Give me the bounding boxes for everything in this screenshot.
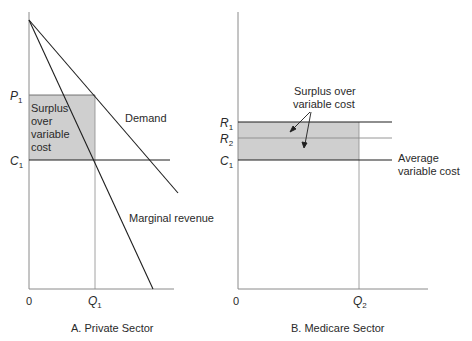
surplus-label-b-2: variable cost xyxy=(293,98,355,110)
caption-medicare-sector: B. Medicare Sector xyxy=(291,322,385,334)
label-r1: R1 xyxy=(220,116,234,132)
label-q2: Q2 xyxy=(353,294,367,310)
avc-label-1: Average xyxy=(398,152,439,164)
surplus-label-a-4: cost xyxy=(31,141,51,153)
panel-medicare-sector: R1 R2 C1 Surplus over variable cost Aver… xyxy=(220,12,460,334)
origin-b: 0 xyxy=(233,295,239,307)
label-q1: Q1 xyxy=(88,294,102,310)
surplus-label-a-2: over xyxy=(31,115,53,127)
label-r2: R2 xyxy=(220,132,234,148)
avc-label-2: variable cost xyxy=(398,165,460,177)
origin-a: 0 xyxy=(26,295,32,307)
caption-private-sector: A. Private Sector xyxy=(71,322,154,334)
label-c1-b: C1 xyxy=(220,154,234,170)
surplus-label-b-1: Surplus over xyxy=(294,85,356,97)
label-p1: P1 xyxy=(10,89,23,105)
surplus-label-a-3: variable xyxy=(31,128,70,140)
panel-private-sector: P1 C1 Surplus over variable cost Demand … xyxy=(10,12,214,334)
demand-label: Demand xyxy=(125,112,167,124)
diagram-canvas: P1 C1 Surplus over variable cost Demand … xyxy=(0,0,472,341)
label-c1-a: C1 xyxy=(10,154,24,170)
surplus-area-b xyxy=(238,122,359,160)
marginal-revenue-label: Marginal revenue xyxy=(129,212,214,224)
surplus-label-a-1: Surplus xyxy=(31,102,69,114)
